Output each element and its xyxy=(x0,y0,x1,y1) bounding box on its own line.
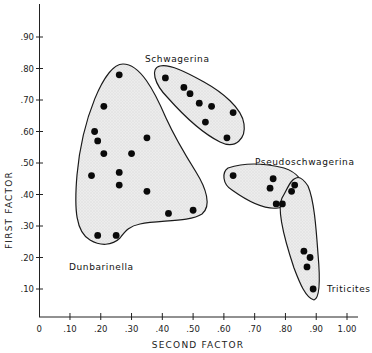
data-point xyxy=(288,188,295,195)
y-tick-label: .90 xyxy=(20,32,34,42)
data-point xyxy=(128,150,135,157)
y-tick-label: .50 xyxy=(20,158,34,168)
data-point xyxy=(180,84,187,91)
data-point xyxy=(94,138,101,145)
y-axis-title: FIRST FACTOR xyxy=(4,171,14,249)
y-tick-label: .80 xyxy=(20,64,34,74)
x-tick-label: .20 xyxy=(94,324,108,334)
x-tick-label: .70 xyxy=(248,324,262,334)
x-tick-label: 1.00 xyxy=(338,324,357,334)
data-point xyxy=(208,103,215,110)
label-pseudoschwagerina: Pseudoschwagerina xyxy=(255,157,355,167)
hull-triticites xyxy=(280,177,319,300)
data-point xyxy=(202,119,209,126)
label-dunbarinella: Dunbarinella xyxy=(69,262,134,272)
label-triticites: Triticites xyxy=(326,284,371,294)
y-tick-label: .70 xyxy=(20,95,34,105)
y-tick-label: .40 xyxy=(20,190,34,200)
data-point xyxy=(162,75,169,82)
data-point xyxy=(187,90,194,97)
data-point xyxy=(270,175,277,182)
data-point xyxy=(224,134,231,141)
data-point xyxy=(230,109,237,116)
x-tick-label: .60 xyxy=(217,324,231,334)
data-point xyxy=(307,254,314,261)
data-point xyxy=(273,201,280,208)
label-schwagerina: Schwagerina xyxy=(145,54,210,64)
y-tick-label: .60 xyxy=(20,127,34,137)
x-tick-label: .80 xyxy=(279,324,293,334)
data-point xyxy=(301,248,308,255)
x-tick-label: .90 xyxy=(309,324,323,334)
data-point xyxy=(91,128,98,135)
data-point xyxy=(304,264,311,271)
data-point xyxy=(291,182,298,189)
data-point xyxy=(116,169,123,176)
data-point xyxy=(144,134,151,141)
x-tick-label: .50 xyxy=(186,324,200,334)
data-point xyxy=(310,286,317,293)
data-point xyxy=(94,232,101,239)
x-axis-title: SECOND FACTOR xyxy=(152,340,244,350)
data-point xyxy=(279,201,286,208)
y-tick-label: .10 xyxy=(20,284,34,294)
data-point xyxy=(116,71,123,78)
x-axis-ticks: 0.10.20.30.40.50.60.70.80.901.00 xyxy=(36,313,356,334)
data-point xyxy=(267,185,274,192)
data-point xyxy=(230,172,237,179)
data-point xyxy=(100,103,107,110)
data-point xyxy=(113,232,120,239)
x-tick-label: .30 xyxy=(125,324,139,334)
scatter-chart: 0.10.20.30.40.50.60.70.80.901.00 .10.20.… xyxy=(0,0,372,353)
x-tick-label: 0 xyxy=(36,324,41,334)
y-tick-label: .30 xyxy=(20,221,34,231)
data-point xyxy=(190,207,197,214)
data-point xyxy=(196,100,203,107)
data-point xyxy=(144,188,151,195)
data-point xyxy=(116,182,123,189)
data-point xyxy=(88,172,95,179)
data-point xyxy=(165,210,172,217)
x-tick-label: .10 xyxy=(63,324,77,334)
x-tick-label: .40 xyxy=(156,324,170,334)
data-point xyxy=(100,150,107,157)
y-tick-label: .20 xyxy=(20,253,34,263)
